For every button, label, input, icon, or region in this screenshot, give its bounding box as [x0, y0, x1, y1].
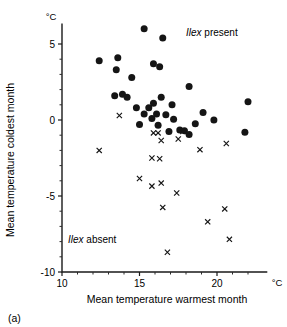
series-ilex-present: [96, 25, 252, 138]
point-marker-dot: [145, 104, 152, 111]
point-marker-cross: [227, 237, 232, 242]
point-marker-cross: [205, 219, 210, 224]
point-marker-dot: [186, 83, 193, 90]
point-marker-dot: [136, 121, 143, 128]
point-marker-dot: [158, 94, 165, 101]
point-marker-dot: [124, 94, 131, 101]
annotation-ilex-absent: Ilex absent: [68, 234, 117, 245]
point-marker-cross: [176, 136, 181, 141]
point-marker-dot: [150, 60, 157, 67]
x-axis-unit-label: °C: [272, 277, 283, 288]
figure-panel-a: 50-5-10101520 °C °C Mean temperature war…: [0, 0, 287, 327]
point-marker-dot: [141, 25, 148, 32]
point-marker-dot: [186, 131, 193, 138]
x-tick-label: 15: [134, 278, 146, 289]
y-tick-label: -10: [41, 267, 56, 278]
series-ilex-absent: [97, 113, 232, 255]
point-marker-dot: [96, 57, 103, 64]
annotation-ilex-present-state: present: [202, 27, 238, 38]
panel-label: (a): [8, 312, 21, 324]
point-marker-cross: [151, 130, 156, 135]
point-marker-cross: [159, 138, 164, 143]
annotation-ilex-absent-genus: Ilex: [68, 234, 85, 245]
y-tick-label: 5: [49, 39, 55, 50]
point-marker-dot: [170, 116, 177, 123]
point-marker-dot: [192, 120, 199, 127]
y-tick-label: 0: [49, 115, 55, 126]
point-marker-dot: [133, 104, 140, 111]
point-marker-dot: [162, 111, 169, 118]
annotation-ilex-present-genus: Ilex: [186, 27, 203, 38]
point-marker-dot: [141, 110, 148, 117]
point-marker-cross: [156, 130, 161, 135]
point-marker-dot: [148, 115, 155, 122]
point-marker-cross: [97, 148, 102, 153]
point-marker-cross: [157, 156, 162, 161]
annotation-ilex-absent-state: absent: [84, 234, 117, 245]
y-axis-title: Mean temperature coldest month: [4, 83, 16, 237]
y-tick-label: -5: [46, 191, 55, 202]
point-marker-dot: [156, 63, 163, 70]
point-marker-dot: [159, 34, 166, 41]
point-marker-dot: [113, 66, 120, 73]
point-marker-dot: [200, 109, 207, 116]
point-marker-cross: [149, 184, 154, 189]
point-marker-cross: [137, 176, 142, 181]
point-marker-dot: [245, 98, 252, 105]
x-tick-label: 10: [56, 278, 68, 289]
point-marker-dot: [111, 92, 118, 99]
point-marker-cross: [222, 206, 227, 211]
point-marker-dot: [128, 74, 135, 81]
point-marker-dot: [210, 117, 217, 124]
point-marker-cross: [160, 205, 165, 210]
data-points: [96, 25, 252, 255]
point-marker-dot: [114, 54, 121, 61]
point-marker-dot: [155, 122, 162, 129]
scatter-plot: 50-5-10101520 °C °C Mean temperature war…: [0, 0, 287, 327]
point-marker-cross: [149, 155, 154, 160]
x-tick-label: 20: [211, 278, 223, 289]
x-axis-title: Mean temperature warmest month: [87, 293, 248, 305]
point-marker-dot: [241, 129, 248, 136]
y-axis-unit-label: °C: [46, 11, 57, 22]
point-marker-cross: [117, 113, 122, 118]
point-marker-dot: [165, 128, 172, 135]
annotation-ilex-present: Ilex present: [186, 27, 238, 38]
point-marker-cross: [174, 190, 179, 195]
point-marker-cross: [165, 250, 170, 255]
point-marker-cross: [197, 147, 202, 152]
point-marker-cross: [159, 180, 164, 185]
point-marker-cross: [224, 141, 229, 146]
point-marker-dot: [169, 101, 176, 108]
